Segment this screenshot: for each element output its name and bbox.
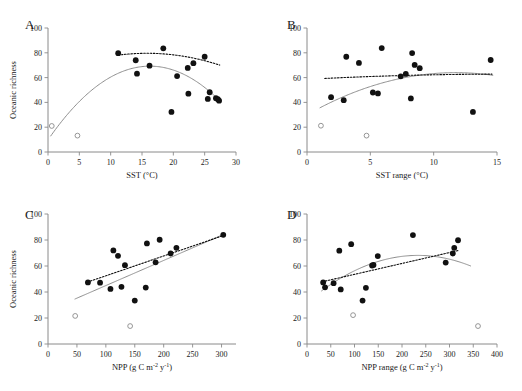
data-point-filled [409, 50, 415, 56]
data-point-open [75, 133, 80, 138]
x-tick-label: 30 [232, 158, 240, 167]
data-point-filled [360, 298, 366, 304]
x-tick-label: 0 [305, 158, 309, 167]
y-axis-title: Oceanic richness [8, 250, 18, 308]
x-tick-label: 50 [327, 350, 335, 359]
y-tick-label: 20 [34, 314, 42, 323]
x-tick-label: 20 [169, 158, 177, 167]
x-tick-label: 100 [349, 350, 361, 359]
data-point-open [49, 124, 54, 129]
data-point-filled [417, 65, 423, 71]
data-point-filled [205, 96, 211, 102]
data-point-filled [115, 50, 121, 56]
data-point-filled [132, 298, 138, 304]
data-point-filled [341, 97, 347, 103]
data-point-filled [348, 241, 354, 247]
y-tick-label: 80 [293, 236, 301, 245]
data-point-filled [160, 45, 166, 51]
y-tick-label: 80 [34, 236, 42, 245]
data-point-filled [451, 245, 457, 251]
panel-b: 020406080100051015SST range (°C) [261, 10, 522, 195]
fit-line-dotted [87, 235, 224, 282]
x-tick-label: 150 [372, 350, 384, 359]
panel-b-plot: 020406080100051015SST range (°C) [261, 10, 522, 195]
data-point-filled [379, 45, 385, 51]
x-tick-label: 200 [396, 350, 408, 359]
data-point-filled [363, 285, 369, 291]
x-tick-label: 100 [100, 350, 112, 359]
data-point-filled [202, 54, 208, 60]
data-point-filled [97, 280, 103, 286]
x-tick-label: 400 [491, 350, 503, 359]
data-point-filled [336, 248, 342, 254]
data-point-filled [134, 71, 140, 77]
x-tick-label: 5 [368, 158, 372, 167]
data-point-filled [144, 240, 150, 246]
data-point-filled [412, 62, 418, 68]
data-point-filled [331, 280, 337, 286]
data-point-filled [157, 237, 163, 243]
data-point-filled [398, 73, 404, 79]
data-point-open [364, 133, 369, 138]
x-tick-label: 250 [420, 350, 432, 359]
x-tick-label: 15 [138, 158, 146, 167]
data-point-open [319, 123, 324, 128]
data-point-filled [153, 259, 159, 265]
y-tick-label: 60 [34, 74, 42, 83]
x-tick-label: 5 [77, 158, 81, 167]
y-tick-label: 40 [293, 98, 301, 107]
y-tick-label: 0 [38, 148, 42, 157]
data-point-filled [322, 284, 328, 290]
data-point-filled [85, 279, 91, 285]
y-tick-label: 60 [293, 74, 301, 83]
data-point-filled [450, 251, 456, 257]
data-point-filled [371, 262, 377, 268]
panel-c: 020406080100050100150200250300NPP (g C m… [0, 200, 261, 391]
panel-c-plot: 020406080100050100150200250300NPP (g C m… [0, 200, 261, 391]
data-point-filled [110, 248, 116, 254]
data-point-filled [408, 96, 414, 102]
data-point-filled [133, 57, 139, 63]
data-point-filled [375, 253, 381, 259]
x-tick-label: 10 [430, 158, 438, 167]
data-point-filled [488, 57, 494, 63]
data-point-filled [375, 91, 381, 97]
panel-d: 020406080100050100150200250300350400NPP … [261, 200, 522, 391]
y-tick-label: 100 [30, 210, 42, 219]
data-point-filled [168, 251, 174, 257]
data-point-filled [220, 232, 226, 238]
data-point-filled [185, 65, 191, 71]
x-tick-label: 0 [305, 350, 309, 359]
svg-text:SST range (°C): SST range (°C) [376, 170, 429, 180]
data-point-open [128, 324, 133, 329]
data-point-filled [143, 285, 149, 291]
data-point-open [351, 313, 356, 318]
data-point-filled [119, 284, 125, 290]
y-tick-label: 20 [293, 314, 301, 323]
data-point-filled [343, 54, 349, 60]
data-point-filled [356, 60, 362, 66]
y-tick-label: 40 [34, 98, 42, 107]
y-axis-title: Oceanic richness [8, 61, 18, 119]
panel-a: 020406080100051015202530SST (°C)Oceanic … [0, 10, 261, 195]
x-tick-label: 200 [158, 350, 170, 359]
y-tick-label: 100 [289, 210, 301, 219]
data-point-filled [115, 253, 121, 259]
x-tick-label: 0 [46, 350, 50, 359]
data-point-filled [216, 98, 222, 104]
x-tick-label: 10 [107, 158, 115, 167]
data-point-open [73, 314, 78, 319]
y-tick-label: 20 [293, 123, 301, 132]
y-tick-label: 60 [293, 262, 301, 271]
x-tick-label: 15 [493, 158, 501, 167]
data-point-filled [320, 279, 326, 285]
y-tick-label: 80 [34, 49, 42, 58]
data-point-filled [185, 91, 191, 97]
data-point-filled [410, 232, 416, 238]
data-point-filled [370, 90, 376, 96]
panel-d-plot: 020406080100050100150200250300350400NPP … [261, 200, 522, 391]
x-tick-label: 300 [216, 350, 228, 359]
scientific-figure: A B C D 020406080100051015202530SST (°C)… [0, 0, 522, 391]
data-point-filled [443, 260, 449, 266]
y-tick-label: 40 [293, 288, 301, 297]
